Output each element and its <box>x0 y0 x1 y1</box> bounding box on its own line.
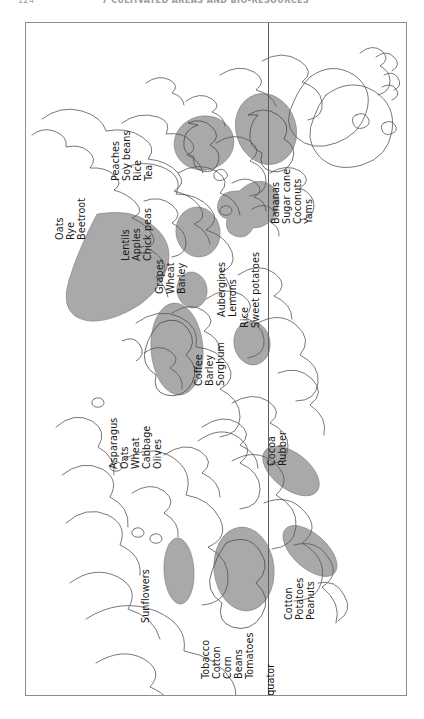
label-east-africa-crops: Coffee Barley Sorghum <box>204 330 237 386</box>
crop-line: Coffee <box>193 354 204 386</box>
figure-frame: .coast{fill:none;stroke:#555;stroke-widt… <box>25 22 407 696</box>
crop-line: Tea <box>143 165 154 181</box>
label-north-eurasia-crops: Oats Rye Beetroot <box>65 182 98 240</box>
crop-line: Potatoes <box>294 578 305 620</box>
crop-line: Beans <box>233 649 244 679</box>
crop-line: Barley <box>176 263 187 294</box>
crop-line: Barley <box>204 355 215 386</box>
crop-line: Soy beans <box>121 130 132 181</box>
crop-line: Tomatoes <box>244 632 255 679</box>
label-southwest-asia-crops: Grapes Wheat Barley <box>165 246 198 294</box>
crop-line: Coconuts <box>292 179 303 224</box>
label-mediterranean-crops: Asparagus Oats Wheat Cabbage Olives <box>119 407 174 469</box>
crop-line: Sweet potatoes <box>250 252 261 328</box>
crop-line: Wheat <box>130 437 141 469</box>
label-south-asia-crops: Lentils Apples Chick peas <box>131 199 164 261</box>
crop-line: Rice <box>239 307 250 328</box>
crop-line: Sugar cane <box>281 169 292 224</box>
crop-line: Sunflowers <box>140 569 151 623</box>
crop-line: Peaches <box>110 141 121 181</box>
crop-line: Chick peas <box>142 208 153 261</box>
crop-line: Peanuts <box>305 581 316 620</box>
crop-line: Rice <box>132 160 143 181</box>
equator-line <box>268 23 269 695</box>
crop-line: Cocoa <box>266 436 277 466</box>
crop-line: Apples <box>131 228 142 261</box>
crop-line: Corn <box>222 656 233 679</box>
label-west-africa-crops: Cocoa Rubber <box>277 418 299 466</box>
crop-line: Cabbage <box>141 426 152 469</box>
crop-line: Beetroot <box>76 198 87 240</box>
crop-line: Rye <box>65 222 76 240</box>
label-south-atlantic-crops: Sunflowers <box>151 561 162 623</box>
label-east-asia-crops: Peaches Soy beans Rice Tea <box>121 123 165 181</box>
crop-line: Olives <box>152 439 163 469</box>
crop-line: Cotton <box>211 646 222 679</box>
crop-line: Rubber <box>277 431 288 466</box>
crop-line: Oats <box>119 446 130 469</box>
label-oceania-crops: Bananas Sugar cane Coconuts Yams <box>281 162 325 224</box>
crop-line: Sorghum <box>215 342 226 386</box>
page-folio: 124 <box>18 0 34 5</box>
running-head-title: 7 CULTIVATED AREAS AND BIO-RESOURCES <box>102 0 309 5</box>
label-south-america-andes-crops: Cotton Potatoes Peanuts <box>294 564 327 620</box>
crop-line: Lemons <box>227 279 238 317</box>
crop-line: Lentils <box>120 229 131 261</box>
crop-line: Wheat <box>165 262 176 294</box>
crop-line: Oats <box>54 217 65 240</box>
crop-line: Asparagus <box>108 418 119 469</box>
crop-line: Tobacco <box>200 640 211 679</box>
crop-line: Grapes <box>154 259 165 294</box>
crop-line: Aubergines <box>216 262 227 317</box>
crop-line: Cotton <box>283 587 294 620</box>
crop-line: Yams <box>303 199 314 224</box>
running-head: 124 7 CULTIVATED AREAS AND BIO-RESOURCES <box>0 0 424 6</box>
crop-line: Bananas <box>270 182 281 224</box>
label-southeast-asia-crops: Rice Sweet potatoes <box>250 250 272 328</box>
label-mesoamerica-crops: Tobacco Cotton Corn Beans Tomatoes <box>211 617 268 679</box>
